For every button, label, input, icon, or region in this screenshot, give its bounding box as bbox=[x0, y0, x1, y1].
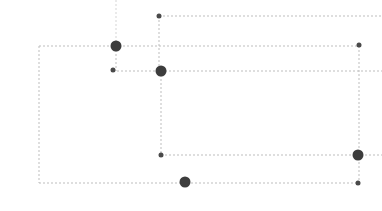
node-endpoint-inner-lower-left[interactable] bbox=[159, 153, 164, 158]
node-endpoint-top[interactable] bbox=[157, 14, 162, 19]
node-endpoint-upper-right[interactable] bbox=[357, 43, 362, 48]
diagram-canvas bbox=[0, 0, 382, 211]
node-junction-bottom-center[interactable] bbox=[180, 177, 191, 188]
nodes-group bbox=[111, 14, 364, 188]
node-junction-upper-left[interactable] bbox=[111, 41, 122, 52]
node-junction-center[interactable] bbox=[156, 66, 167, 77]
node-junction-lower-right[interactable] bbox=[353, 150, 364, 161]
diagram-svg bbox=[0, 0, 382, 211]
edges-group bbox=[39, 0, 382, 183]
node-endpoint-bottom-right[interactable] bbox=[356, 181, 361, 186]
node-endpoint-left-mid[interactable] bbox=[111, 68, 116, 73]
